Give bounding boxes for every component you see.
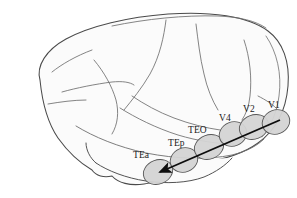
region-label-TEp: TEp	[168, 138, 185, 148]
cortex-outline-group	[39, 13, 288, 184]
region-label-TEa: TEa	[133, 150, 150, 160]
brain-diagram-figure: TEa TEp TEO V4 V2 V1	[0, 0, 297, 198]
region-label-V1: V1	[268, 100, 280, 110]
brain-lateral-view-svg: TEa TEp TEO V4 V2 V1	[0, 0, 297, 198]
region-label-TEO: TEO	[188, 125, 207, 135]
region-label-V4: V4	[219, 113, 231, 123]
cerebrum-outline	[39, 13, 288, 184]
region-label-V2: V2	[243, 104, 255, 114]
